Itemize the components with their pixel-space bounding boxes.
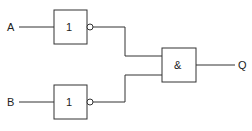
inversion-bubble-top (87, 24, 93, 30)
input-a-label: A (7, 21, 15, 33)
output-q-label: Q (238, 59, 247, 71)
wire-bottom-to-and (93, 75, 162, 102)
inversion-bubble-bottom (87, 99, 93, 105)
input-b-label: B (7, 96, 14, 108)
wire-top-to-and (93, 27, 162, 56)
not-gate-top-label: 1 (66, 21, 72, 33)
not-gate-bottom-label: 1 (66, 96, 72, 108)
and-gate-label: & (174, 59, 182, 71)
logic-circuit-diagram: A B 1 1 & Q (0, 0, 252, 131)
